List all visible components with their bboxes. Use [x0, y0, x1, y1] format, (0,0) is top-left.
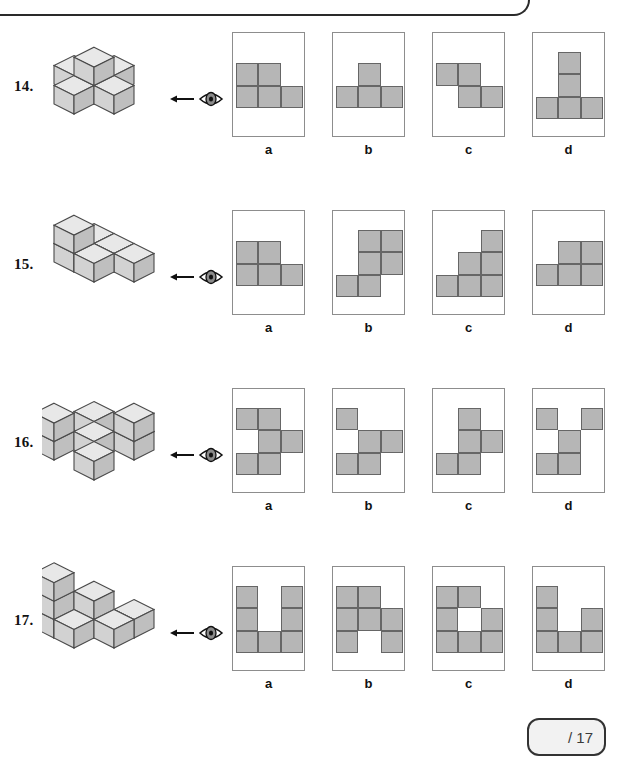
option-box-c[interactable] — [432, 388, 505, 493]
option-label-c: c — [432, 142, 505, 157]
plan-cell — [536, 586, 559, 609]
left-arrow-icon — [170, 452, 194, 459]
plan-cell — [536, 97, 559, 120]
question-number-14: 14. — [14, 78, 34, 95]
plan-view-grid — [533, 211, 604, 314]
plan-cell — [558, 264, 581, 287]
option-box-d[interactable] — [532, 32, 605, 137]
option-box-c[interactable] — [432, 32, 505, 137]
plan-cell — [458, 453, 481, 476]
plan-cell — [381, 252, 404, 275]
score-box[interactable]: / 17 — [527, 718, 606, 756]
plan-cell — [336, 275, 359, 298]
plan-cell — [436, 453, 459, 476]
option-label-a: a — [232, 498, 305, 513]
plan-cell — [436, 631, 459, 654]
plan-cell — [236, 63, 259, 86]
isometric-cube-figure — [42, 382, 172, 502]
plan-cell — [481, 86, 504, 109]
plan-cell — [236, 631, 259, 654]
option-box-d[interactable] — [532, 566, 605, 671]
option-label-d: d — [532, 142, 605, 157]
plan-view-grid — [233, 389, 304, 492]
option-box-a[interactable] — [232, 210, 305, 315]
plan-cell — [581, 631, 604, 654]
plan-cell — [381, 86, 404, 109]
plan-cell — [481, 252, 504, 275]
plan-cell — [381, 230, 404, 253]
plan-cell — [358, 252, 381, 275]
plan-cell — [258, 264, 281, 287]
option-label-b: b — [332, 676, 405, 691]
option-box-d[interactable] — [532, 388, 605, 493]
plan-view-grid — [233, 211, 304, 314]
plan-cell — [281, 430, 304, 453]
plan-view-grid — [433, 389, 504, 492]
plan-cell — [536, 608, 559, 631]
plan-cell — [458, 63, 481, 86]
option-box-c[interactable] — [432, 210, 505, 315]
option-box-a[interactable] — [232, 388, 305, 493]
option-box-b[interactable] — [332, 566, 405, 671]
plan-cell — [458, 586, 481, 609]
plan-cell — [558, 430, 581, 453]
plan-cell — [458, 252, 481, 275]
plan-cell — [536, 408, 559, 431]
plan-cell — [358, 63, 381, 86]
plan-cell — [281, 264, 304, 287]
plan-cell — [258, 453, 281, 476]
plan-view-grid — [433, 567, 504, 670]
isometric-cube-figure — [42, 560, 172, 680]
plan-cell — [236, 453, 259, 476]
question-row-16: 16. abcd — [0, 374, 635, 534]
plan-cell — [258, 86, 281, 109]
plan-cell — [336, 608, 359, 631]
option-box-b[interactable] — [332, 388, 405, 493]
left-arrow-icon — [170, 274, 194, 281]
view-direction-marker — [168, 266, 226, 288]
plan-cell — [258, 631, 281, 654]
plan-cell — [258, 63, 281, 86]
plan-cell — [336, 586, 359, 609]
plan-cell — [458, 631, 481, 654]
plan-cell — [358, 86, 381, 109]
plan-cell — [458, 275, 481, 298]
score-text: / 17 — [568, 729, 593, 746]
plan-cell — [436, 275, 459, 298]
plan-cell — [436, 608, 459, 631]
plan-cell — [258, 430, 281, 453]
question-row-14: 14. abcd — [0, 18, 635, 178]
plan-cell — [358, 230, 381, 253]
question-number-15: 15. — [14, 256, 34, 273]
option-label-a: a — [232, 320, 305, 335]
eye-icon — [200, 93, 222, 106]
plan-cell — [458, 430, 481, 453]
option-box-c[interactable] — [432, 566, 505, 671]
option-label-c: c — [432, 498, 505, 513]
option-box-b[interactable] — [332, 32, 405, 137]
plan-cell — [581, 264, 604, 287]
view-direction-marker — [168, 88, 226, 110]
plan-view-grid — [333, 389, 404, 492]
plan-cell — [236, 264, 259, 287]
option-box-b[interactable] — [332, 210, 405, 315]
plan-cell — [236, 86, 259, 109]
plan-cell — [581, 241, 604, 264]
isometric-cube-figure — [42, 26, 172, 146]
eye-icon — [200, 449, 222, 462]
plan-cell — [358, 430, 381, 453]
plan-view-grid — [233, 567, 304, 670]
plan-cell — [381, 608, 404, 631]
option-label-b: b — [332, 142, 405, 157]
plan-cell — [581, 97, 604, 120]
view-direction-marker — [168, 622, 226, 644]
plan-cell — [358, 608, 381, 631]
option-box-a[interactable] — [232, 32, 305, 137]
plan-cell — [281, 608, 304, 631]
plan-cell — [481, 230, 504, 253]
left-arrow-icon — [170, 96, 194, 103]
option-box-d[interactable] — [532, 210, 605, 315]
plan-cell — [558, 241, 581, 264]
option-box-a[interactable] — [232, 566, 305, 671]
plan-view-grid — [433, 33, 504, 136]
